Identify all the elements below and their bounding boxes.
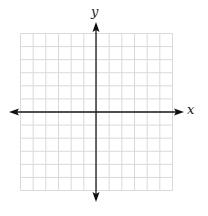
y-axis-label: y	[91, 5, 98, 18]
x-axis-label: x	[187, 103, 194, 116]
coordinate-plane	[0, 0, 208, 216]
